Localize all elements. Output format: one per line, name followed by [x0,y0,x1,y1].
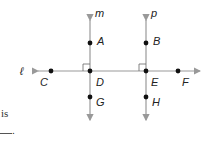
label-a: A [96,35,104,47]
point-d [88,69,93,74]
point-h [144,95,149,100]
point-g [88,95,93,100]
text-fragment-is: is [1,107,8,119]
geometry-diagram: m p ℓ A B C D E F G H [0,0,216,146]
label-h: H [152,96,160,108]
label-f: F [182,76,190,88]
point-f [176,69,181,74]
answer-blank [0,133,12,134]
label-c: C [40,76,48,88]
label-b: B [153,35,160,47]
point-c [49,69,54,74]
point-e [144,69,149,74]
label-g: G [96,96,105,108]
label-m: m [95,7,104,19]
blank-period: . [12,124,15,136]
label-e: E [151,76,159,88]
point-b [144,41,149,46]
label-d: D [96,76,104,88]
label-l: ℓ [19,65,24,77]
label-p: p [150,7,157,19]
point-a [88,41,93,46]
